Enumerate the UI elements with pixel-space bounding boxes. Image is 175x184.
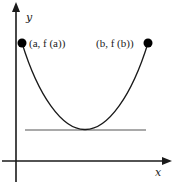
y-axis [12, 2, 20, 182]
y-axis-label: y [25, 11, 33, 24]
point-a-marker [18, 39, 27, 48]
function-curve [22, 43, 148, 130]
point-b-label: (b, f (b)) [96, 37, 134, 50]
y-axis-arrow-icon [12, 2, 20, 12]
x-axis-arrow-icon [162, 157, 172, 165]
point-b-marker [144, 39, 153, 48]
x-axis-label: x [155, 166, 162, 179]
point-a-label: (a, f (a)) [29, 37, 66, 50]
x-axis [2, 157, 172, 165]
rolle-diagram: y x (a, f (a)) (b, f (b)) [0, 0, 175, 184]
